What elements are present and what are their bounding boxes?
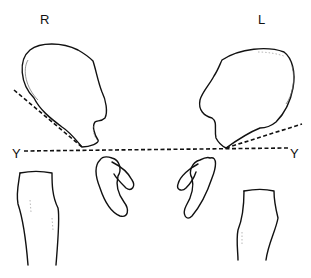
right-tangent-line bbox=[14, 90, 82, 147]
label-right: R bbox=[40, 12, 49, 27]
label-y-left: Y bbox=[12, 146, 21, 161]
right-ischium bbox=[96, 157, 133, 216]
label-y-right: Y bbox=[290, 146, 299, 161]
label-left: L bbox=[258, 12, 265, 27]
right-femur bbox=[17, 172, 59, 266]
left-ilium bbox=[200, 49, 294, 148]
y-reference-line bbox=[24, 148, 288, 151]
left-femur bbox=[237, 190, 278, 261]
left-ischium bbox=[178, 158, 216, 218]
hip-diagram: R L Y Y bbox=[0, 0, 311, 278]
